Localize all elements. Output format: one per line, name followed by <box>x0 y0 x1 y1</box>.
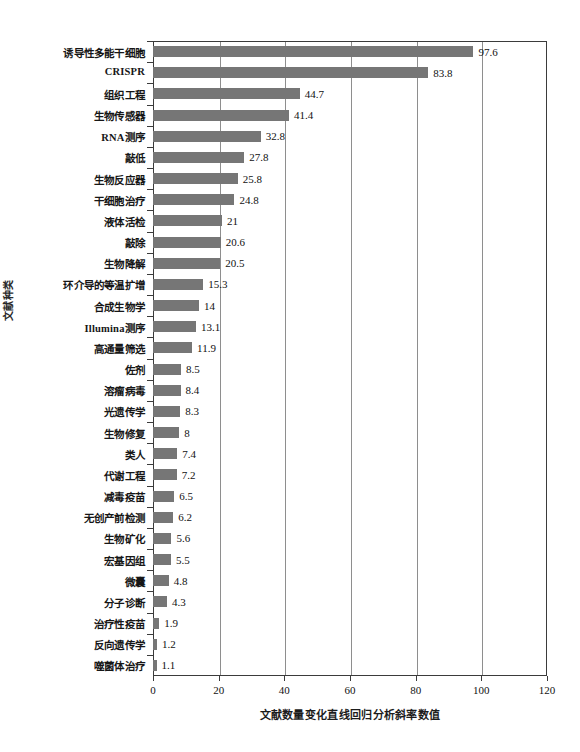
bar-row[interactable]: 8.4 <box>153 380 547 401</box>
x-tick <box>481 676 482 681</box>
bar-row[interactable]: 7.4 <box>153 443 547 464</box>
bar[interactable] <box>153 491 174 502</box>
bar-row[interactable]: 20.5 <box>153 253 547 274</box>
x-tick-label: 100 <box>461 684 501 696</box>
bar-value-label: 32.8 <box>266 130 285 142</box>
bar-value-label: 8.3 <box>185 405 199 417</box>
bar-value-label: 14 <box>204 300 215 312</box>
bar[interactable] <box>153 618 159 629</box>
x-tick <box>153 676 154 681</box>
bar[interactable] <box>153 596 167 607</box>
bar[interactable] <box>153 554 171 565</box>
bar[interactable] <box>153 469 177 480</box>
bar-row[interactable]: 8.5 <box>153 359 547 380</box>
bar-row[interactable]: 8.3 <box>153 401 547 422</box>
bar-row[interactable]: 97.6 <box>153 41 547 62</box>
category-label: 无创产前检测 <box>0 510 145 525</box>
x-tick-label: 60 <box>330 684 370 696</box>
bar-row[interactable]: 25.8 <box>153 168 547 189</box>
bar-value-label: 4.8 <box>174 575 188 587</box>
bar[interactable] <box>153 639 157 650</box>
category-label: 治疗性疫苗 <box>0 616 145 631</box>
bar-value-label: 24.8 <box>239 194 258 206</box>
bar-row[interactable]: 1.2 <box>153 634 547 655</box>
bar-value-label: 6.5 <box>179 490 193 502</box>
bar-row[interactable]: 1.9 <box>153 613 547 634</box>
bar-row[interactable]: 7.2 <box>153 464 547 485</box>
bar-value-label: 7.4 <box>182 448 196 460</box>
bar-value-label: 44.7 <box>305 88 324 100</box>
bar-row[interactable]: 21 <box>153 210 547 231</box>
bar[interactable] <box>153 512 173 523</box>
bar-row[interactable]: 14 <box>153 295 547 316</box>
bar[interactable] <box>153 427 179 438</box>
bar-row[interactable]: 4.3 <box>153 591 547 612</box>
bar[interactable] <box>153 46 473 57</box>
bar-row[interactable]: 6.2 <box>153 507 547 528</box>
category-label: 代谢工程 <box>0 468 145 483</box>
bar-row[interactable]: 44.7 <box>153 83 547 104</box>
bar-row[interactable]: 15.3 <box>153 274 547 295</box>
x-tick-label: 80 <box>396 684 436 696</box>
bar-row[interactable]: 6.5 <box>153 486 547 507</box>
bar[interactable] <box>153 215 222 226</box>
bar-value-label: 4.3 <box>172 596 186 608</box>
x-tick-label: 120 <box>527 684 567 696</box>
category-label: 溶瘤病毒 <box>0 383 145 398</box>
x-tick <box>416 676 417 681</box>
category-label: 合成生物学 <box>0 299 145 314</box>
bar[interactable] <box>153 385 181 396</box>
bar-row[interactable]: 5.6 <box>153 528 547 549</box>
bar[interactable] <box>153 67 428 78</box>
bar[interactable] <box>153 173 238 184</box>
category-label: 液体活检 <box>0 214 145 229</box>
bar[interactable] <box>153 131 261 142</box>
bar-row[interactable]: 11.9 <box>153 337 547 358</box>
bar[interactable] <box>153 448 177 459</box>
bar-value-label: 97.6 <box>478 46 497 58</box>
bar[interactable] <box>153 575 169 586</box>
bar[interactable] <box>153 406 180 417</box>
bar[interactable] <box>153 364 181 375</box>
bar-row[interactable]: 5.5 <box>153 549 547 570</box>
bar[interactable] <box>153 533 171 544</box>
bar[interactable] <box>153 237 221 248</box>
category-label: 类人 <box>0 447 145 462</box>
bar[interactable] <box>153 152 244 163</box>
bar[interactable] <box>153 321 196 332</box>
bar-value-label: 5.6 <box>176 532 190 544</box>
category-label: 减毒疫苗 <box>0 489 145 504</box>
bar-row[interactable]: 83.8 <box>153 62 547 83</box>
bar[interactable] <box>153 88 300 99</box>
category-label: 组织工程 <box>0 87 145 102</box>
bar-row[interactable]: 8 <box>153 422 547 443</box>
category-label: 噬菌体治疗 <box>0 658 145 673</box>
category-label: 敲低 <box>0 150 145 165</box>
bar-row[interactable]: 27.8 <box>153 147 547 168</box>
bar-value-label: 15.3 <box>208 278 227 290</box>
bar[interactable] <box>153 660 157 671</box>
bar[interactable] <box>153 194 234 205</box>
bar[interactable] <box>153 258 220 269</box>
category-label: 佐剂 <box>0 362 145 377</box>
bar-value-label: 8 <box>184 427 190 439</box>
bar-value-label: 8.4 <box>186 384 200 396</box>
category-label: 生物矿化 <box>0 531 145 546</box>
bar-row[interactable]: 4.8 <box>153 570 547 591</box>
bar-row[interactable]: 24.8 <box>153 189 547 210</box>
x-tick <box>284 676 285 681</box>
bar-row[interactable]: 13.1 <box>153 316 547 337</box>
bar[interactable] <box>153 342 192 353</box>
bar-row[interactable]: 20.6 <box>153 232 547 253</box>
bar-row[interactable]: 1.1 <box>153 655 547 676</box>
bar[interactable] <box>153 110 289 121</box>
x-tick <box>547 676 548 681</box>
bar-chart: 文献种类 诱导性多能干细胞CRISPR组织工程生物传感器RNA测序敲低生物反应器… <box>0 0 580 752</box>
bar[interactable] <box>153 279 203 290</box>
x-axis-title: 文献数量变化直线回归分析斜率数值 <box>153 706 547 722</box>
bar[interactable] <box>153 300 199 311</box>
bar-row[interactable]: 41.4 <box>153 105 547 126</box>
category-label: 生物反应器 <box>0 172 145 187</box>
category-label: 高通量筛选 <box>0 341 145 356</box>
bar-row[interactable]: 32.8 <box>153 126 547 147</box>
